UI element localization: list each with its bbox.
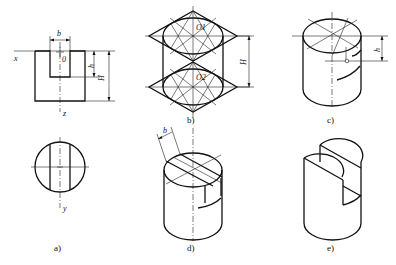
slot-width-label: b (57, 29, 61, 38)
slot-width-label-d: b (163, 126, 167, 135)
caption-b: b) (187, 115, 195, 125)
caption-a: a) (54, 243, 61, 253)
height-label-b: H (239, 58, 248, 66)
caption-d: d) (187, 243, 195, 253)
center-bottom-label: O2 (196, 73, 206, 82)
z-axis-label: z (62, 109, 67, 118)
y-axis-label: y (62, 204, 67, 213)
caption-e: e) (327, 243, 334, 253)
x-axis-label: x (13, 54, 18, 63)
origin-label: 0 (62, 55, 66, 64)
center-top-label: O1 (196, 23, 206, 32)
caption-c: c) (327, 115, 334, 125)
panel-a-top-view (31, 137, 89, 208)
panel-e-finished (304, 139, 363, 240)
slot-depth-label: h (87, 64, 96, 68)
panel-c-slot-depth (292, 12, 388, 108)
slotted-cylinder-figure: x 0 b h H z y a) (0, 0, 396, 265)
slot-depth-label-c: h (373, 48, 382, 52)
panel-d-slot-width (157, 127, 222, 241)
panel-a-front-view (14, 36, 115, 112)
height-label: H (97, 74, 106, 82)
